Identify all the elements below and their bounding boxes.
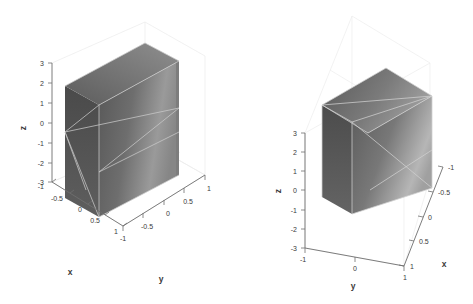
left-xtick-1: -0.5 <box>51 195 63 202</box>
right-xtick-1: -0.5 <box>438 189 450 196</box>
left-ytick-3: 0.5 <box>183 198 193 205</box>
left-y-axis-label: y <box>159 274 164 284</box>
right-ztick-1: 2 <box>293 149 297 156</box>
left-surface-box <box>65 43 179 217</box>
plot-svg: 3 2 1 0 -1 -2 -3 z -1 -0.5 0 0.5 1 x -1 <box>0 0 473 304</box>
left-xtick-3: 0.5 <box>90 217 100 224</box>
right-z-ticks <box>301 133 305 248</box>
left-ztick-1: 2 <box>40 80 44 87</box>
right-ztick-5: -2 <box>291 226 297 233</box>
left-ztick-3: 0 <box>40 120 44 127</box>
left-ytick-4: 1 <box>207 185 211 192</box>
right-ztick-6: -3 <box>291 245 297 252</box>
right-ztick-2: 1 <box>293 168 297 175</box>
left-ztick-4: -1 <box>38 140 44 147</box>
right-y-axis <box>305 248 404 266</box>
left-z-axis-label: z <box>18 126 28 130</box>
left-x-axis-label: x <box>68 267 73 277</box>
left-xtick-0: -1 <box>38 183 44 190</box>
left-ztick-2: 1 <box>40 100 44 107</box>
right-ytick-2: 1 <box>403 274 407 281</box>
left-xtick-2: 0 <box>78 206 82 213</box>
right-ztick-0: 3 <box>293 130 297 137</box>
left-ztick-0: 3 <box>40 60 44 67</box>
right-ytick-0: -1 <box>300 256 306 263</box>
right-xtick-0: -1 <box>448 164 454 171</box>
right-y-axis-label: y <box>351 281 356 291</box>
right-xtick-3: 0.5 <box>419 238 429 245</box>
right-ztick-4: -1 <box>291 207 297 214</box>
left-ztick-5: -2 <box>38 160 44 167</box>
left-ytick-2: 0 <box>166 210 170 217</box>
right-ytick-1: 0 <box>353 265 357 272</box>
right-ztick-3: 0 <box>293 187 297 194</box>
right-xtick-2: 0 <box>428 214 432 221</box>
left-xtick-4: 1 <box>114 228 118 235</box>
left-ytick-0: -1 <box>120 235 126 242</box>
right-z-axis-label: z <box>273 189 283 193</box>
right-surface-box <box>322 68 432 214</box>
right-panel: 3 2 1 0 -1 -2 -3 z -1 0 1 y -1 -0.5 0 0.… <box>273 16 454 291</box>
right-x-axis-label: x <box>442 259 447 269</box>
left-z-ticks <box>48 63 52 182</box>
figure-canvas: 3 2 1 0 -1 -2 -3 z -1 -0.5 0 0.5 1 x -1 <box>0 0 473 304</box>
left-panel: 3 2 1 0 -1 -2 -3 z -1 -0.5 0 0.5 1 x -1 <box>18 22 211 284</box>
right-xtick-4: 1 <box>410 263 414 270</box>
left-ytick-1: -0.5 <box>141 223 153 230</box>
